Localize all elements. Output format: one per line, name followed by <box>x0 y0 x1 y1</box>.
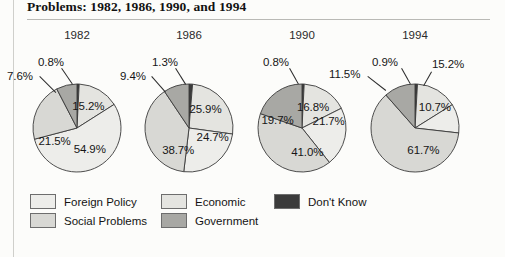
legend-swatch-icon <box>161 213 187 228</box>
chart-year-label-1986: 1986 <box>159 29 219 41</box>
pie-slice-value-1990-economic: 16.8% <box>293 101 333 113</box>
legend-column-2: Don't Know <box>274 193 366 212</box>
legend-swatch-icon <box>30 194 56 209</box>
pie-chart-1990 <box>256 82 348 174</box>
legend-column-0: Foreign PolicySocial Problems <box>30 193 147 231</box>
legend-swatch-icon <box>274 194 300 209</box>
pie-slice-value-1994-social-problems: 61.7% <box>403 144 443 156</box>
pie-chart-1986 <box>143 82 235 174</box>
pie-slice-value-1990-foreign-policy: 21.7% <box>309 115 349 127</box>
pie-slice-value-1986-don-t-know: 1.3% <box>152 56 178 68</box>
legend-column-1: EconomicGovernment <box>161 193 258 231</box>
pie-slice-value-1986-economic: 25.9% <box>185 103 225 115</box>
page-title: Problems: 1982, 1986, 1990, and 1994 <box>27 0 246 15</box>
legend-item-don-t-know: Don't Know <box>274 193 366 210</box>
pie-slice-value-1982-social-problems: 21.5% <box>35 135 75 147</box>
legend-item-social-problems: Social Problems <box>30 212 147 229</box>
legend-item-government: Government <box>161 212 258 229</box>
pie-slice-value-1986-government: 9.4% <box>120 70 146 82</box>
pie-slice-value-1994-don-t-know: 0.9% <box>372 56 398 68</box>
pie-slice-value-1982-government: 7.6% <box>7 70 33 82</box>
legend-item-label: Social Problems <box>64 215 147 227</box>
pie-slice-value-1990-government: 19.7% <box>258 114 298 126</box>
legend-item-label: Economic <box>195 196 246 208</box>
legend-item-foreign-policy: Foreign Policy <box>30 193 147 210</box>
pie-slice-value-1982-foreign-policy: 54.9% <box>70 143 110 155</box>
pie-wrap-1982 <box>31 82 123 174</box>
legend-swatch-icon <box>161 194 187 209</box>
page-edge-rule <box>13 0 14 257</box>
pie-slice-value-1986-social-problems: 38.7% <box>158 144 198 156</box>
pie-slice-value-1986-foreign-policy: 24.7% <box>193 131 233 143</box>
pie-slice-value-1994-economic: 15.2% <box>432 58 464 70</box>
pie-wrap-1986 <box>143 82 235 174</box>
pie-wrap-1994 <box>369 82 461 174</box>
pie-chart-1994 <box>369 82 461 174</box>
chart-year-label-1982: 1982 <box>47 29 107 41</box>
legend-item-label: Foreign Policy <box>64 196 137 208</box>
title-divider <box>27 19 490 20</box>
legend-item-economic: Economic <box>161 193 258 210</box>
pie-slice-value-1990-don-t-know: 0.8% <box>263 56 289 68</box>
pie-chart-1982 <box>31 82 123 174</box>
chart-year-label-1994: 1994 <box>385 29 445 41</box>
pie-slice-value-1982-don-t-know: 0.8% <box>38 56 64 68</box>
page-canvas: Problems: 1982, 1986, 1990, and 1994 198… <box>0 0 505 257</box>
pie-slice-value-1990-social-problems: 41.0% <box>287 146 327 158</box>
pie-slice-value-1994-foreign-policy: 10.7% <box>415 101 455 113</box>
legend-item-label: Don't Know <box>308 196 366 208</box>
legend-swatch-icon <box>30 213 56 228</box>
chart-year-label-1990: 1990 <box>272 29 332 41</box>
pie-slice-value-1994-government: 11.5% <box>329 68 360 80</box>
pie-slice-value-1982-economic: 15.2% <box>68 100 108 112</box>
pie-wrap-1990 <box>256 82 348 174</box>
legend-item-label: Government <box>195 215 258 227</box>
